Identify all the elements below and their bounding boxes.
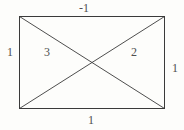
diagram-graphics — [0, 0, 184, 130]
edge-label-right: 1 — [172, 62, 178, 74]
diagram-canvas: -1 1 1 1 3 2 — [0, 0, 184, 130]
edge-label-left: 1 — [7, 46, 13, 58]
region-label-right-triangle: 2 — [131, 46, 137, 58]
region-label-left-triangle: 3 — [44, 46, 50, 58]
edge-label-top: -1 — [79, 2, 89, 14]
edge-label-bottom: 1 — [88, 114, 94, 126]
